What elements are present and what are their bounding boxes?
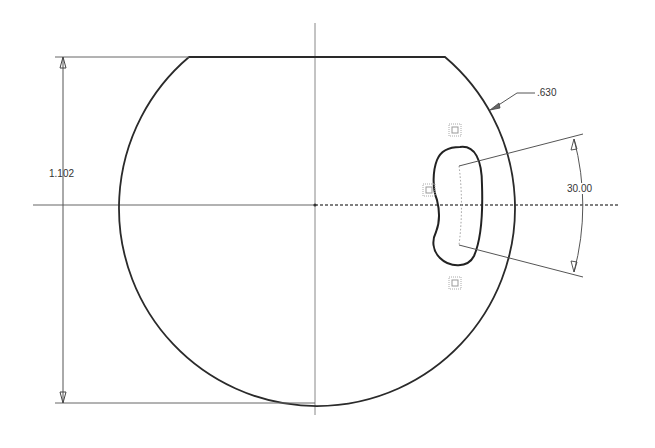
- part-profile[interactable]: [119, 57, 515, 406]
- center-axes: [33, 23, 620, 415]
- angle-dimension-value[interactable]: 30.00: [566, 183, 593, 194]
- constraint-icon-bottom[interactable]: [449, 277, 461, 289]
- constraint-icon-top[interactable]: [449, 124, 461, 136]
- radius-leader[interactable]: [490, 93, 535, 110]
- height-dimension-value[interactable]: 1.102: [49, 168, 74, 179]
- arc-slot[interactable]: [433, 147, 482, 265]
- sketch-canvas[interactable]: [0, 0, 655, 448]
- radius-dimension-value[interactable]: .630: [537, 87, 556, 98]
- height-dimension[interactable]: [55, 57, 315, 403]
